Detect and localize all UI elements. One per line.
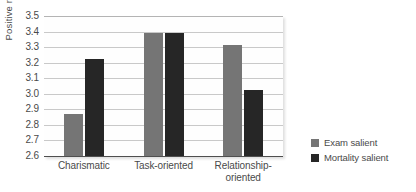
y-tick-label: 3.4 xyxy=(16,27,39,37)
x-tick-label: Task-oriented xyxy=(121,160,207,172)
y-tick-label: 3.5 xyxy=(16,11,39,21)
plot-area xyxy=(44,16,283,157)
x-tick-label-line: Task-oriented xyxy=(121,160,207,172)
x-tick-label-line: Relationship- xyxy=(200,160,286,172)
bar xyxy=(165,33,184,155)
bar-group xyxy=(64,16,104,156)
y-tick-label: 2.8 xyxy=(16,120,39,130)
x-tick-label: Relationship-oriented xyxy=(200,160,286,184)
bar xyxy=(64,114,83,156)
legend-entry: Mortality salient xyxy=(311,151,415,164)
bar-chart-figure: Positive ratings 3.53.43.33.23.13.02.92.… xyxy=(0,0,416,192)
x-tick-label-line: oriented xyxy=(200,172,286,184)
bar xyxy=(85,59,104,155)
y-tick-label: 3.3 xyxy=(16,42,39,52)
bar-group xyxy=(223,16,263,156)
x-axis-tick-labels: CharismaticTask-orientedRelationship-ori… xyxy=(44,160,283,190)
y-tick-label: 3.0 xyxy=(16,89,39,99)
legend-label: Mortality salient xyxy=(324,152,388,163)
y-tick-label: 3.1 xyxy=(16,73,39,83)
y-tick-label: 2.6 xyxy=(16,151,39,161)
legend-swatch-icon xyxy=(311,154,319,162)
y-tick-label: 2.7 xyxy=(16,135,39,145)
y-axis-tick-labels: 3.53.43.33.23.13.02.92.82.72.6 xyxy=(16,11,39,163)
x-tick-label-line: Charismatic xyxy=(41,160,127,172)
chart-legend: Exam salientMortality salient xyxy=(311,136,415,166)
y-axis-title: Positive ratings xyxy=(2,0,16,52)
bar xyxy=(144,33,163,155)
legend-label: Exam salient xyxy=(324,137,377,148)
y-tick-label: 2.9 xyxy=(16,104,39,114)
x-axis-line xyxy=(44,156,283,158)
bar-group xyxy=(144,16,184,156)
legend-entry: Exam salient xyxy=(311,136,415,149)
bar xyxy=(244,90,263,155)
bar xyxy=(223,45,242,155)
legend-swatch-icon xyxy=(311,139,319,147)
x-tick-label: Charismatic xyxy=(41,160,127,172)
y-tick-label: 3.2 xyxy=(16,58,39,68)
